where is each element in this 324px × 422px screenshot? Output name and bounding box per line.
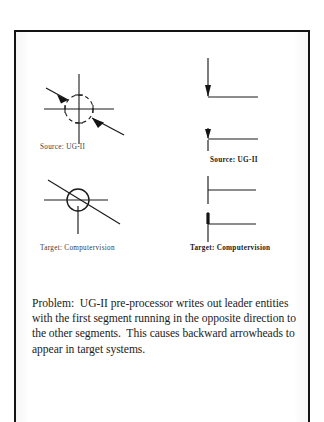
arrowhead-down-upper <box>205 85 211 97</box>
arrowhead-down-lower <box>205 129 211 139</box>
figure-source-ug2-left: Source: UG-II <box>32 66 172 178</box>
leader-vertical-arrow-to-horizontal-shelf-icon <box>186 52 306 162</box>
leader-plus-cross-no-arrowhead-icon <box>186 172 306 254</box>
figure-caption-target-computervision-left: Target: Computervision <box>40 244 115 252</box>
figure-target-computervision-left: Target: Computervision <box>32 172 172 280</box>
figure-caption-target-computervision-right: Target: Computervision <box>190 244 270 252</box>
problem-statement: Problem: UG-II pre-processor writes out … <box>32 296 302 357</box>
arrowhead-stub-lower <box>206 213 209 224</box>
problem-statement-text: Problem: UG-II pre-processor writes out … <box>32 296 302 357</box>
slide-frame: Source: UG-II <box>14 30 310 422</box>
figure-grid: Source: UG-II <box>16 32 312 272</box>
figure-caption-source-ug2-right: Source: UG-II <box>210 156 258 164</box>
figure-source-ug2-right: Source: UG-II <box>186 52 306 178</box>
leader-circle-backward-arrowhead-icon <box>32 172 172 254</box>
figure-caption-source-ug2-left: Source: UG-II <box>40 143 85 151</box>
figure-target-computervision-right: Target: Computervision <box>186 172 306 280</box>
backward-arrowhead-lower-right <box>92 118 104 128</box>
